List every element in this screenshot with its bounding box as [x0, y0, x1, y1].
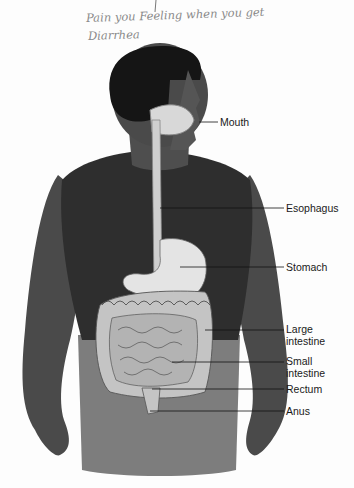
label-small-intestine-line2: intestine [286, 367, 325, 379]
label-rectum: Rectum [286, 383, 322, 395]
label-mouth: Mouth [220, 116, 249, 128]
label-esophagus: Esophagus [286, 202, 339, 214]
handwritten-note-line2: Diarrhea [88, 27, 140, 43]
label-large-intestine-line1: Large [286, 323, 313, 335]
small-intestine-organ [109, 314, 197, 387]
label-anus: Anus [286, 405, 310, 417]
label-stomach: Stomach [286, 261, 327, 273]
label-large-intestine-line2: intestine [286, 335, 325, 347]
label-small-intestine-line1: Small [286, 355, 312, 367]
